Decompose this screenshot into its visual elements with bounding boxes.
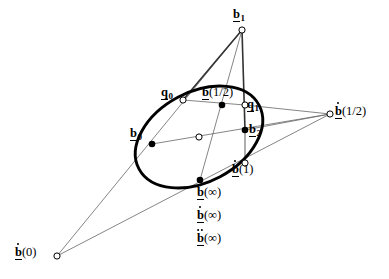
label-b-half-base: b (202, 86, 209, 100)
label-b0: b0 (130, 127, 142, 141)
label-bdot-0-arg: (0) (22, 245, 37, 259)
label-b2: b2 (249, 123, 261, 137)
point-center (196, 134, 202, 140)
label-b-infinity-0-base: b (197, 186, 204, 200)
line-b1-to-b2 (242, 30, 245, 130)
point-b-inf (197, 177, 204, 184)
label-b-infinity-2: b(∞) (197, 232, 221, 246)
label-bdot-0: b(0) (15, 246, 37, 260)
label-b1-subscript: 1 (240, 13, 245, 23)
label-b1: b1 (233, 8, 245, 22)
label-bdot-0-base: b (15, 246, 22, 260)
line-q0-to-q1 (183, 100, 245, 105)
point-bdot-half (327, 111, 333, 117)
label-b-infinity-1: b(∞) (197, 209, 221, 223)
conic-construction-figure: b1 q0 b(1/2) q1 b0 b2 b(1/2) b(1) b(∞) b… (0, 0, 389, 279)
label-b-half-arg: (1/2) (209, 85, 233, 99)
label-bdot-1-arg: (1) (239, 162, 254, 176)
line-b0-to-bdothalf (152, 114, 330, 144)
point-bdot-0 (54, 253, 60, 259)
label-b-infinity-1-arg: (∞) (204, 208, 221, 222)
point-b2 (242, 127, 249, 134)
label-b2-subscript: 2 (256, 128, 261, 138)
label-q0-subscript: 0 (168, 91, 173, 101)
label-q1-subscript: 1 (254, 103, 259, 113)
label-b-half: b(1/2) (202, 86, 233, 100)
label-bdot-half: b(1/2) (335, 105, 366, 119)
control-polygon (183, 30, 245, 130)
label-bdot-1-base: b (232, 163, 239, 177)
label-b-infinity-1-base: b (197, 209, 204, 223)
label-bdot-half-arg: (1/2) (342, 104, 366, 118)
label-bdot-half-base: b (335, 105, 342, 119)
label-b-infinity-2-base: b (197, 232, 204, 246)
diagram-canvas (0, 0, 389, 279)
label-bdot-1: b(1) (232, 163, 254, 177)
label-q0: q0 (161, 86, 173, 100)
label-b1-base: b (233, 8, 240, 22)
label-q0-base: q (161, 86, 168, 100)
construction-lines (57, 30, 330, 256)
label-b-infinity-0-arg: (∞) (204, 185, 221, 199)
label-b0-base: b (130, 127, 137, 141)
point-b-half (219, 102, 226, 109)
point-b0 (149, 141, 156, 148)
label-q1: q1 (247, 98, 259, 112)
point-q0 (180, 97, 186, 103)
label-b2-base: b (249, 123, 256, 137)
label-b0-subscript: 0 (137, 132, 142, 142)
label-q1-base: q (247, 98, 254, 112)
point-b1 (239, 27, 245, 33)
label-b-infinity-2-arg: (∞) (204, 231, 221, 245)
label-b-infinity-0: b(∞) (197, 186, 221, 200)
open-points (54, 27, 333, 259)
line-bdot0-to-bdothalf (57, 114, 330, 256)
